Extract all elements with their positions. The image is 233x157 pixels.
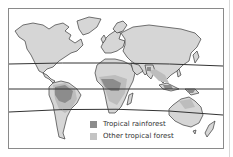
europe xyxy=(101,31,125,53)
philippines xyxy=(177,69,181,77)
japan xyxy=(193,51,199,63)
legend-label-other-forest: Other tropical forest xyxy=(103,130,174,142)
new-zealand xyxy=(205,121,215,137)
rainforest-swatch-icon xyxy=(90,121,97,128)
north-america xyxy=(15,23,83,73)
greenland xyxy=(77,17,101,35)
tasmania xyxy=(193,130,196,134)
other-forest-swatch-icon xyxy=(90,133,97,140)
legend-label-rainforest: Tropical rainforest xyxy=(103,118,166,130)
page-edge-line xyxy=(229,0,230,157)
legend-item-rainforest: Tropical rainforest xyxy=(90,118,174,130)
madagascar xyxy=(127,93,133,105)
map-legend: Tropical rainforest Other tropical fores… xyxy=(90,118,174,142)
legend-item-other-forest: Other tropical forest xyxy=(90,130,174,142)
rainforest-india xyxy=(147,67,151,71)
central-america xyxy=(43,73,55,83)
